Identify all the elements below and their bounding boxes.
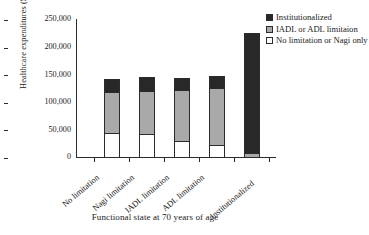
- legend-item-iadl-or-adl: IADL or ADL limitaion: [266, 24, 369, 34]
- x-tick-mark: [269, 157, 270, 162]
- plot-area: 250,000 200,000 150,000 100,000 50,000 0: [76, 19, 266, 157]
- segment-institutionalized: [174, 78, 190, 90]
- y-tick-mark: [4, 75, 8, 76]
- dark-swatch-icon: [266, 14, 273, 21]
- gray-swatch-icon: [266, 26, 273, 33]
- y-tick-150000: 150,000: [4, 70, 76, 79]
- segment-iadl-or-adl: [244, 153, 260, 157]
- bar-stack: [209, 76, 225, 157]
- bar-group: [209, 19, 225, 157]
- segment-iadl-or-adl: [174, 90, 190, 141]
- y-tick-mark: [4, 48, 8, 49]
- white-swatch-icon: [266, 37, 273, 44]
- segment-iadl-or-adl: [139, 91, 155, 134]
- segment-iadl-or-adl: [209, 88, 225, 145]
- y-tick-mark: [4, 158, 8, 159]
- bar-stack: [139, 77, 155, 157]
- legend-item-institutionalized: Institutionalized: [266, 12, 369, 22]
- legend-label: No limitation or Nagi only: [276, 35, 369, 45]
- segment-no-limitation: [174, 141, 190, 157]
- y-tick-0: 0: [4, 152, 76, 161]
- bars-layer: [77, 19, 266, 157]
- segment-institutionalized: [104, 79, 120, 93]
- legend-label: IADL or ADL limitaion: [276, 24, 369, 34]
- segment-no-limitation: [104, 133, 120, 157]
- y-tick-50000: 50,000: [4, 125, 76, 134]
- x-tick-mark: [164, 157, 165, 162]
- x-tick-mark: [129, 157, 130, 162]
- y-tick-200000: 200,000: [4, 42, 76, 51]
- x-tick-mark: [234, 157, 235, 162]
- y-tick-mark: [4, 103, 8, 104]
- segment-no-limitation: [209, 145, 225, 157]
- chart-legend: Institutionalized IADL or ADL limitaion …: [266, 12, 369, 47]
- segment-no-limitation: [139, 134, 155, 157]
- legend-item-no-limitation: No limitation or Nagi only: [266, 35, 369, 45]
- x-tick-mark: [94, 157, 95, 162]
- segment-iadl-or-adl: [104, 92, 120, 133]
- x-axis-title: Functional state at 70 years of age: [0, 212, 310, 222]
- y-tick-mark: [4, 20, 8, 21]
- segment-institutionalized: [244, 33, 260, 152]
- y-tick-250000: 250,000: [4, 14, 76, 23]
- bar-group: [104, 19, 120, 157]
- y-tick-100000: 100,000: [4, 97, 76, 106]
- bar-stack: [244, 33, 260, 157]
- bar-group: [174, 19, 190, 157]
- bar-stack: [104, 79, 120, 157]
- bar-group: [139, 19, 155, 157]
- legend-label: Institutionalized: [276, 12, 369, 22]
- bar-group: [244, 19, 260, 157]
- x-label-no-limitation: No limitation: [19, 173, 101, 235]
- stacked-bar-chart: Healthcare expenditures ($) 250,000 200,…: [0, 0, 369, 235]
- y-tick-mark: [4, 130, 8, 131]
- bar-stack: [174, 78, 190, 157]
- segment-institutionalized: [209, 76, 225, 88]
- segment-institutionalized: [139, 77, 155, 91]
- x-axis-line: [76, 157, 276, 158]
- x-tick-mark: [199, 157, 200, 162]
